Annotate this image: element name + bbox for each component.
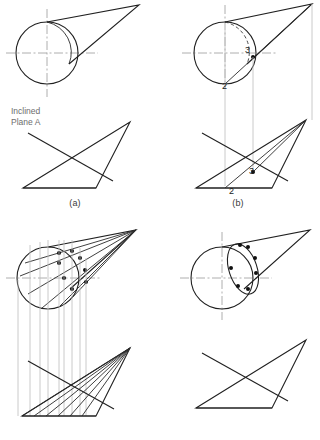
cone-outline-top-a <box>47 5 139 64</box>
panel-c: (c) <box>0 220 160 440</box>
element-line-3-b <box>225 4 312 84</box>
inclined-plane-line-b <box>202 133 288 181</box>
label-point-3-front: 3 <box>249 166 254 176</box>
cone-outline-top-d <box>222 230 310 289</box>
front-element-c-6 <box>82 348 130 416</box>
inclined-plane-label: Inclined Plane A <box>11 106 40 128</box>
cone-front-triangle-d <box>196 340 306 408</box>
ellipse-point-d-4 <box>254 271 258 275</box>
element-line-2-front-b <box>225 120 306 188</box>
inclined-plane-line-d <box>202 353 288 401</box>
ellipse-intersection-d <box>222 240 265 298</box>
ellipse-point-d-3 <box>253 256 257 260</box>
ellipse-point-d-6 <box>236 284 240 288</box>
cut-arc-a <box>47 22 71 64</box>
label-point-2-top: 2 <box>222 81 227 91</box>
cone-front-triangle-a <box>23 122 130 188</box>
cone-front-triangle-b <box>196 120 306 188</box>
front-element-c-2 <box>34 348 130 416</box>
label-point-2-front: 2 <box>229 186 234 196</box>
front-element-c-5 <box>70 348 130 416</box>
ellipse-point-d-7 <box>229 266 233 270</box>
element-line-3-front-b <box>253 120 306 172</box>
panel-d-drawing <box>160 220 320 440</box>
panel-c-drawing <box>0 220 160 440</box>
label-point-3-top: 3 <box>245 45 250 55</box>
ellipse-point-d-2 <box>246 245 250 249</box>
panel-b-drawing <box>160 0 320 220</box>
panel-a: Inclined Plane A (a) <box>0 0 160 220</box>
panel-d: (d) <box>160 220 320 440</box>
figure-cone-inclined-plane: Inclined Plane A (a) (b) 3 2 <box>0 0 320 440</box>
cut-arc-hidden-b <box>225 22 249 64</box>
panel-b: (b) <box>160 0 320 220</box>
ellipse-point-d-5 <box>246 287 250 291</box>
caption-a: (a) <box>0 198 155 208</box>
ellipse-point-d-1 <box>238 243 242 247</box>
front-element-c-1 <box>22 348 130 416</box>
front-element-c-4 <box>58 348 130 416</box>
cone-outline-top-b <box>225 4 312 64</box>
element-line-c-4 <box>42 230 136 308</box>
caption-b: (b) <box>158 198 318 208</box>
